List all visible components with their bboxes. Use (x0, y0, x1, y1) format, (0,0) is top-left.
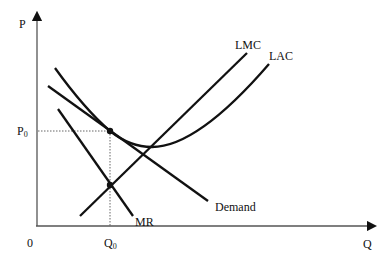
x-axis-label: Q (363, 238, 372, 250)
demand-line (48, 86, 208, 201)
p0-label-subscript: 0 (24, 130, 28, 139)
tangency-point (107, 128, 113, 134)
p0-label: P0 (17, 125, 28, 139)
lmc-line (80, 53, 247, 216)
lmc-label: LMC (235, 39, 261, 51)
mr-lmc-intersection-point (107, 182, 113, 188)
p0-label-main: P (17, 124, 24, 138)
origin-label: 0 (27, 237, 33, 249)
q0-label-main: Q (104, 236, 113, 250)
q0-label: Q0 (104, 237, 117, 251)
demand-label: Demand (215, 201, 256, 213)
y-axis-label: P (19, 18, 26, 30)
q0-label-subscript: 0 (113, 242, 117, 251)
lac-label: LAC (269, 50, 293, 62)
mr-label: MR (135, 216, 154, 228)
diagram-canvas (0, 0, 391, 265)
